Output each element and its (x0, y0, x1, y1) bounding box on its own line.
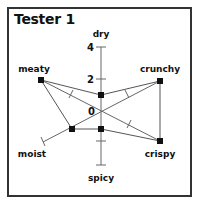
point-crunchy (157, 78, 163, 84)
tick-label-2: 2 (87, 74, 94, 85)
tick-label-0: 0 (88, 106, 95, 117)
axis-label-spicy: spicy (88, 173, 114, 183)
point-dry (98, 92, 104, 98)
radar-chart: 4 2 0 dry crunchy crispy spicy moist mea… (0, 0, 198, 200)
point-meaty (38, 77, 44, 83)
point-moist (69, 126, 75, 132)
tick-label-4: 4 (87, 42, 94, 53)
point-crispy (157, 138, 163, 144)
point-spicy (98, 126, 104, 132)
axis-label-dry: dry (93, 29, 110, 39)
axis-label-crunchy: crunchy (140, 64, 180, 74)
axis-label-crispy: crispy (145, 149, 176, 159)
axis-label-meaty: meaty (18, 64, 50, 74)
axis-label-moist: moist (18, 149, 47, 159)
